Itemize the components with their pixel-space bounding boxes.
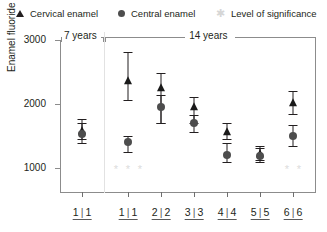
x-tick-label: 2|2 [152, 206, 171, 220]
asterisk-marker-icon: ✱ [216, 10, 225, 17]
x-tick [161, 192, 162, 197]
x-tick [194, 192, 195, 197]
error-bar-cap [223, 123, 232, 124]
significance-marker: * [114, 164, 118, 175]
legend-label-cervical-enamel: Cervical enamel [30, 8, 98, 19]
x-tick [260, 192, 261, 197]
significance-marker: * [297, 164, 301, 175]
central-enamel-marker [256, 152, 264, 160]
central-enamel-marker [190, 119, 198, 127]
cervical-enamel-marker [223, 128, 231, 136]
y-tick [55, 168, 60, 169]
significance-marker: * [126, 164, 130, 175]
x-tick [128, 192, 129, 197]
central-enamel-marker [289, 132, 297, 140]
x-tick [227, 192, 228, 197]
error-bar-cap [256, 146, 265, 147]
central-enamel-marker [78, 130, 86, 138]
plot-right-border [315, 40, 316, 193]
legend-item-level-of-significance: ✱ Level of significance [216, 8, 317, 19]
group-header-cap [315, 37, 316, 42]
cervical-enamel-marker [289, 98, 297, 106]
error-bar-cap [289, 125, 298, 126]
cervical-enamel-marker [190, 102, 198, 110]
y-tick [55, 104, 60, 105]
error-bar-cap [289, 91, 298, 92]
cervical-enamel-marker [124, 77, 132, 85]
error-bar-cap [223, 162, 232, 163]
group-header-label: 14 years [189, 30, 227, 41]
error-bar-cap [289, 146, 298, 147]
group-divider [104, 32, 105, 193]
legend-item-central-enamel: Central enamel [118, 8, 195, 19]
error-bar-cap [78, 119, 87, 120]
legend-label-level-of-significance: Level of significance [231, 8, 317, 19]
central-enamel-marker [124, 138, 132, 146]
legend-item-cervical-enamel: Cervical enamel [16, 8, 98, 19]
error-bar-cap [190, 97, 199, 98]
chart-legend: Cervical enamel Central enamel ✱ Level o… [0, 0, 327, 26]
group-header-cap [103, 37, 104, 42]
group-header-rule [105, 37, 185, 38]
error-bar-cap [124, 100, 133, 101]
plot-area: 100020003000 1|11|12|23|34|45|56|6 ***** [60, 40, 316, 193]
error-bar-cap [190, 132, 199, 133]
significance-marker: * [138, 164, 142, 175]
y-tick-label: 1000 [24, 162, 46, 173]
group-header-label: 7 years [64, 30, 97, 41]
y-tick-label: 3000 [24, 34, 46, 45]
central-enamel-marker [223, 151, 231, 159]
x-tick-label: 1|1 [73, 206, 92, 220]
y-tick-label: 2000 [24, 98, 46, 109]
x-tick [82, 192, 83, 197]
x-tick-label: 1|1 [119, 206, 138, 220]
error-bar-cap [256, 162, 265, 163]
group-header-rule [235, 37, 315, 38]
y-axis-line [60, 40, 61, 193]
x-tick-label: 3|3 [185, 206, 204, 220]
error-bar-cap [190, 115, 199, 116]
error-bar-cap [157, 95, 166, 96]
legend-label-central-enamel: Central enamel [131, 8, 195, 19]
error-bar-cap [157, 123, 166, 124]
x-tick [293, 192, 294, 197]
cervical-enamel-marker [157, 83, 165, 91]
group-header-cap [61, 37, 62, 42]
y-tick [55, 40, 60, 41]
error-bar-cap [78, 143, 87, 144]
x-tick-label: 6|6 [284, 206, 303, 220]
error-bar-cap [223, 139, 232, 140]
error-bar-cap [256, 148, 265, 149]
chart-figure: Cervical enamel Central enamel ✱ Level o… [0, 0, 327, 232]
significance-marker: * [285, 164, 289, 175]
error-bar-cap [124, 152, 133, 153]
error-bar-cap [124, 136, 133, 137]
error-bar-cap [157, 73, 166, 74]
error-bar-cap [124, 52, 133, 53]
x-tick-label: 5|5 [251, 206, 270, 220]
error-bar-cap [78, 123, 87, 124]
circle-marker-icon [118, 10, 125, 17]
error-bar-cap [223, 143, 232, 144]
error-bar-cap [289, 114, 298, 115]
y-axis-title: Enamel fluoride (ppm) [6, 0, 17, 72]
x-tick-label: 4|4 [218, 206, 237, 220]
triangle-marker-icon [16, 10, 24, 17]
x-axis-line [60, 192, 316, 193]
central-enamel-marker [157, 103, 165, 111]
group-header-cap [105, 37, 106, 42]
